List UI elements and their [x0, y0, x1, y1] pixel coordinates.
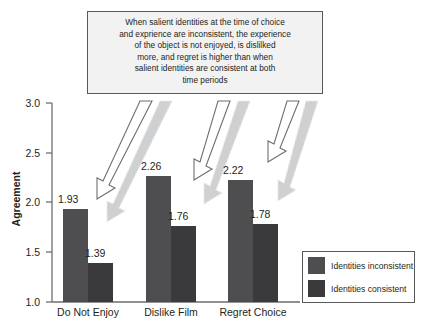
- value-label-dislike-film-inconsistent: 2.26: [141, 161, 161, 172]
- y-tick-label-3.0: 3.0: [14, 98, 40, 109]
- y-tick-label-1.5: 1.5: [14, 247, 40, 258]
- bar-regret-choice-consistent: [253, 224, 278, 302]
- category-label-regret-choice: Regret Choice: [208, 306, 298, 318]
- y-axis-title: Agreement: [10, 159, 22, 239]
- callout-line-1: When salient identities at the time of c…: [94, 17, 316, 29]
- value-label-dislike-film-consistent: 1.76: [168, 211, 188, 222]
- legend: Identities inconsistent Identities consi…: [302, 251, 415, 303]
- y-tick-label-1.0: 1.0: [14, 297, 40, 308]
- bar-dislike-film-inconsistent: [146, 176, 171, 302]
- bar-dislike-film-consistent: [171, 226, 196, 302]
- value-label-do-not-enjoy-consistent: 1.39: [85, 248, 105, 259]
- legend-item-identities-consistent: Identities consistent: [308, 280, 406, 297]
- legend-item-identities-inconsistent: Identities inconsistent: [308, 257, 413, 274]
- callout-annotation: When salient identities at the time of c…: [87, 11, 323, 94]
- value-label-regret-choice-inconsistent: 2.22: [223, 165, 243, 176]
- bar-chart: When salient identities at the time of c…: [0, 0, 425, 331]
- callout-line-3: of the object is not enjoyed, is dislilk…: [94, 40, 316, 52]
- legend-swatch-consistent: [308, 280, 325, 297]
- category-label-dislike-film: Dislike Film: [126, 306, 216, 318]
- callout-line-6: time periods: [94, 75, 316, 87]
- legend-label-inconsistent: Identities inconsistent: [331, 261, 413, 271]
- callout-line-4: more, and regret is higher than when: [94, 52, 316, 64]
- legend-label-consistent: Identities consistent: [331, 284, 406, 294]
- y-tick-label-2.5: 2.5: [14, 148, 40, 159]
- y-axis-title-wrap: Agreement: [9, 160, 23, 240]
- value-label-do-not-enjoy-inconsistent: 1.93: [58, 194, 78, 205]
- value-label-regret-choice-consistent: 1.78: [250, 209, 270, 220]
- callout-line-2: and exprience are inconsistent, the expe…: [94, 29, 316, 41]
- legend-swatch-inconsistent: [308, 257, 325, 274]
- bar-regret-choice-inconsistent: [228, 180, 253, 302]
- callout-line-5: salient identities are consistent at bot…: [94, 63, 316, 75]
- category-label-do-not-enjoy: Do Not Enjoy: [43, 306, 133, 318]
- bar-do-not-enjoy-consistent: [88, 263, 113, 302]
